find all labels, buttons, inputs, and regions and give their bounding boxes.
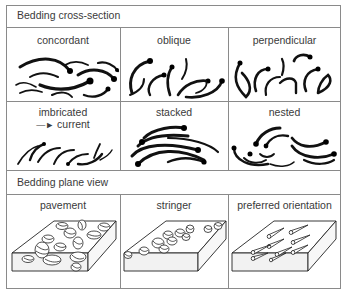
label-pavement: pavement (6, 199, 120, 211)
divider (6, 101, 341, 102)
label-preferred-orientation: preferred orientation (228, 199, 341, 211)
nested-illustration (230, 124, 340, 170)
stringer-block-illustration (122, 215, 228, 285)
label-stacked: stacked (120, 106, 228, 118)
label-nested: nested (228, 106, 341, 118)
current-direction-label: —► current (6, 118, 120, 130)
sublabel-current: current (57, 118, 90, 130)
label-imbricated: imbricated (6, 106, 120, 118)
divider (6, 194, 341, 195)
divider (228, 27, 229, 170)
label-oblique: oblique (120, 34, 228, 46)
label-perpendicular: perpendicular (228, 34, 341, 46)
perpendicular-illustration (232, 53, 338, 100)
label-stringer: stringer (120, 199, 228, 211)
stacked-illustration (128, 124, 224, 170)
concordant-illustration (10, 55, 118, 100)
right-arrow-icon: —► (36, 120, 54, 130)
label-concordant: concordant (6, 34, 120, 46)
preferred-orientation-block-illustration (230, 215, 338, 285)
divider (120, 27, 121, 170)
pavement-block-illustration (10, 215, 118, 285)
imbricated-illustration (14, 140, 114, 168)
divider (6, 27, 341, 28)
section-title-cross-section: Bedding cross-section (17, 9, 120, 21)
divider (6, 170, 341, 171)
oblique-illustration (124, 55, 228, 100)
section-title-plane-view: Bedding plane view (17, 176, 108, 188)
